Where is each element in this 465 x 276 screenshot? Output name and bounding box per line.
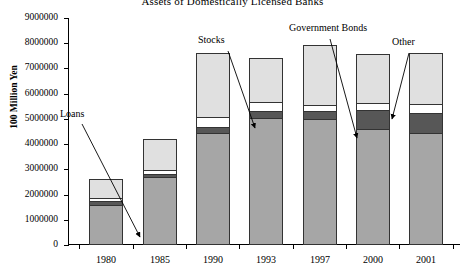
bar-segment-loans[interactable]	[143, 177, 177, 245]
y-axis-line	[68, 18, 69, 245]
bar-segment-government-bonds[interactable]	[409, 113, 443, 133]
bar-segment-stocks[interactable]	[249, 58, 283, 102]
bar-stack[interactable]	[249, 58, 283, 245]
y-axis-tick	[64, 94, 69, 95]
bar-segment-loans[interactable]	[249, 118, 283, 245]
x-axis-tick-label: 2000	[343, 254, 403, 265]
bar-segment-other[interactable]	[196, 117, 230, 128]
y-axis-tick	[64, 245, 69, 246]
y-axis-tick-label: 6000000	[0, 89, 58, 98]
y-axis-tick-label: 2000000	[0, 190, 58, 199]
y-axis-tick	[64, 68, 69, 69]
y-axis-tick-label: 7000000	[0, 63, 58, 72]
bar-segment-government-bonds[interactable]	[356, 110, 390, 129]
bar-segment-stocks[interactable]	[356, 54, 390, 103]
chart-title: Assets of Domestically Licensed Banks	[0, 0, 465, 7]
bar-segment-government-bonds[interactable]	[249, 111, 283, 119]
bar-segment-other[interactable]	[409, 104, 443, 113]
bar-segment-government-bonds[interactable]	[303, 111, 337, 119]
bar-segment-loans[interactable]	[196, 133, 230, 245]
bar-segment-stocks[interactable]	[303, 45, 337, 106]
x-axis-tick	[346, 244, 347, 249]
bar-segment-other[interactable]	[356, 103, 390, 110]
y-axis-tick	[64, 169, 69, 170]
bar-segment-loans[interactable]	[89, 205, 123, 245]
x-axis-tick	[399, 244, 400, 249]
y-axis-tick-label: 5000000	[0, 114, 58, 123]
annotation-label-government-bonds: Government Bonds	[289, 22, 367, 33]
y-axis-tick-label: 0	[0, 240, 58, 249]
annotation-label-stocks: Stocks	[198, 34, 225, 45]
bar-stack[interactable]	[303, 45, 337, 245]
bar-segment-stocks[interactable]	[409, 53, 443, 103]
x-axis-tick	[239, 244, 240, 249]
bar-stack[interactable]	[143, 139, 177, 245]
y-axis-tick-label: 9000000	[0, 13, 58, 22]
x-axis-tick	[79, 244, 80, 249]
x-axis-tick	[133, 244, 134, 249]
bar-segment-other[interactable]	[249, 102, 283, 111]
x-axis-tick-label: 1997	[290, 254, 350, 265]
y-axis-tick	[64, 144, 69, 145]
plot-area: 0100000020000003000000400000050000006000…	[68, 18, 460, 245]
bar-stack[interactable]	[196, 53, 230, 245]
bar-segment-stocks[interactable]	[143, 139, 177, 170]
y-axis-tick-label: 8000000	[0, 38, 58, 47]
y-axis-tick	[64, 195, 69, 196]
y-axis-tick	[64, 119, 69, 120]
annotation-label-other: Other	[392, 36, 415, 47]
y-axis-tick-label: 1000000	[0, 215, 58, 224]
y-axis-tick	[64, 43, 69, 44]
x-axis-tick	[293, 244, 294, 249]
y-axis-tick	[64, 18, 69, 19]
bar-stack[interactable]	[356, 54, 390, 245]
bar-chart: Assets of Domestically Licensed Banks 10…	[0, 0, 465, 276]
x-axis-tick	[453, 244, 454, 249]
bar-segment-loans[interactable]	[303, 119, 337, 245]
y-axis-tick	[64, 220, 69, 221]
annotation-label-loans: Loans	[60, 108, 84, 119]
x-axis-tick-label: 1993	[236, 254, 296, 265]
bar-segment-loans[interactable]	[409, 133, 443, 245]
y-axis-tick-label: 3000000	[0, 164, 58, 173]
x-axis-tick-label: 2001	[396, 254, 456, 265]
bar-stack[interactable]	[409, 53, 443, 245]
bar-segment-stocks[interactable]	[196, 53, 230, 117]
x-axis-tick-label: 1980	[76, 254, 136, 265]
x-axis-tick-label: 1990	[183, 254, 243, 265]
bar-segment-loans[interactable]	[356, 129, 390, 245]
y-axis-tick-label: 4000000	[0, 139, 58, 148]
bar-segment-stocks[interactable]	[89, 179, 123, 199]
bar-stack[interactable]	[89, 179, 123, 245]
x-axis-tick-label: 1985	[130, 254, 190, 265]
x-axis-tick	[186, 244, 187, 249]
